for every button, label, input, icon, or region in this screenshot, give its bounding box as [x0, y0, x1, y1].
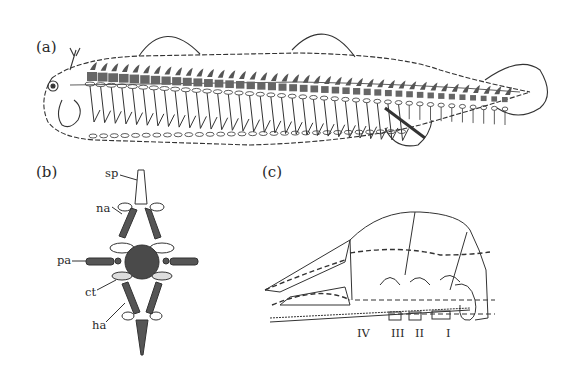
panel-c-skull — [265, 212, 495, 322]
vertebral-series — [85, 62, 512, 141]
panel-b-vertebra — [72, 170, 198, 355]
figure-drawing — [0, 0, 575, 374]
